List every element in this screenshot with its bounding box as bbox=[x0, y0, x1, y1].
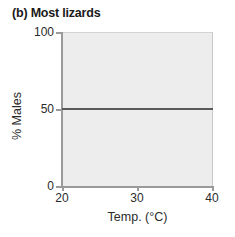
x-axis-tick-label-40: 40 bbox=[205, 191, 218, 205]
page-title: (b) Most lizards bbox=[12, 6, 100, 20]
y-axis-tick-label-50: 50 bbox=[41, 102, 54, 116]
data-series-line bbox=[62, 108, 213, 110]
x-axis-tick-label-30: 30 bbox=[130, 191, 143, 205]
y-axis-tick-100 bbox=[56, 32, 62, 34]
y-axis-tick-label-0: 0 bbox=[47, 179, 54, 193]
x-axis-tick-label-20: 20 bbox=[55, 191, 68, 205]
y-axis-label: % Males bbox=[10, 92, 24, 140]
x-axis-label: Temp. (°C) bbox=[62, 210, 213, 224]
chart-figure: (b) Most lizards 100 50 0 20 30 40 % Mal… bbox=[0, 0, 235, 237]
y-axis-tick-label-100: 100 bbox=[34, 25, 54, 39]
